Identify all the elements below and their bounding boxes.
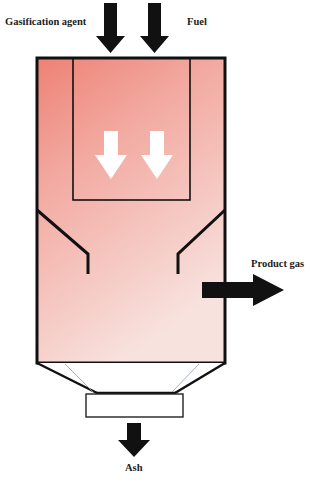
- fuel-arrow-icon: [140, 3, 169, 53]
- ash-box: [86, 394, 183, 417]
- ash-label: Ash: [125, 462, 143, 473]
- gasification-agent-arrow-icon: [96, 3, 125, 53]
- ash-arrow-icon: [118, 423, 150, 457]
- product-gas-label: Product gas: [251, 258, 304, 269]
- gasification-agent-label: Gasification agent: [5, 16, 86, 27]
- fuel-label: Fuel: [187, 16, 207, 27]
- gasifier-diagram: [0, 0, 310, 482]
- vessel-body: [37, 58, 225, 363]
